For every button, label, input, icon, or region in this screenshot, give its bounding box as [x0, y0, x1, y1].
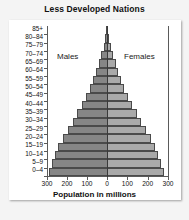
bar-female — [107, 68, 118, 76]
bar-female — [107, 134, 151, 142]
y-axis-tick-label: 15–19 — [25, 141, 43, 149]
y-axis-tick-label: 55–59 — [25, 75, 43, 83]
x-axis-tick-label: 100 — [122, 180, 133, 187]
y-axis-tick-label: 60–64 — [25, 66, 43, 74]
x-axis-ticks: 3002001000100200300 — [0, 177, 189, 189]
bar-female — [107, 143, 155, 151]
bar-male — [63, 134, 107, 142]
bar-male — [90, 84, 107, 92]
y-axis-tick-label: 20–24 — [25, 133, 43, 141]
y-axis-tick-label: 35–39 — [25, 108, 43, 116]
bar-male — [82, 101, 107, 109]
chart-title: Less Developed Nations — [0, 4, 189, 14]
bar-female — [107, 118, 141, 126]
y-axis-tick-label: 75–79 — [25, 41, 43, 49]
y-axis-tick-label: 50–54 — [25, 83, 43, 91]
y-axis-tick-label: 85+ — [32, 25, 43, 33]
y-axis-tick-label: 10–14 — [25, 150, 43, 158]
y-axis-tick-label: 80–84 — [25, 33, 43, 41]
bar-female — [107, 159, 161, 167]
bar-male — [86, 93, 107, 101]
center-axis-line — [107, 26, 108, 177]
bar-female — [107, 109, 137, 117]
bar-male — [96, 68, 107, 76]
bar-female — [107, 76, 121, 84]
x-axis-title: Population in millions — [0, 190, 189, 199]
bar-male — [49, 168, 107, 176]
x-axis-tick-label: 300 — [162, 180, 173, 187]
bar-male — [55, 151, 107, 159]
bar-male — [73, 118, 107, 126]
series-label-females: Females — [124, 52, 155, 61]
bar-female — [107, 59, 116, 67]
population-pyramid-figure: Less Developed Nations 85+80–8475–7970–7… — [0, 0, 189, 220]
x-axis-tick-label: 0 — [105, 180, 109, 187]
bar-female — [107, 93, 128, 101]
y-axis-line — [47, 26, 48, 177]
series-label-males: Males — [57, 52, 78, 61]
x-axis-tick-label: 300 — [41, 180, 52, 187]
bar-female — [107, 84, 124, 92]
bar-male — [68, 126, 107, 134]
bar-female — [107, 168, 164, 176]
y-axis-tick-label: 5–9 — [32, 158, 43, 166]
y-axis-tick-label: 70–74 — [25, 50, 43, 58]
y-axis-tick-label: 65–69 — [25, 58, 43, 66]
y-axis-tick-label: 25–29 — [25, 125, 43, 133]
x-axis-tick-label: 200 — [142, 180, 153, 187]
y-axis-tick-label: 30–34 — [25, 116, 43, 124]
y-axis-tick-label: 40–44 — [25, 100, 43, 108]
bar-female — [107, 126, 146, 134]
bar-male — [58, 143, 107, 151]
y-axis-tick-label: 0–4 — [32, 166, 43, 174]
bar-male — [52, 159, 107, 167]
y-axis-tick-label: 45–49 — [25, 91, 43, 99]
y-axis-labels: 85+80–8475–7970–7465–6960–6455–5950–5445… — [0, 26, 45, 176]
bar-male — [99, 59, 107, 67]
bar-male — [77, 109, 107, 117]
x-axis-tick-label: 100 — [81, 180, 92, 187]
x-axis-tick-label: 200 — [61, 180, 72, 187]
bar-female — [107, 151, 158, 159]
bar-male — [93, 76, 107, 84]
plot-right-border — [168, 26, 169, 177]
bar-female — [107, 101, 132, 109]
